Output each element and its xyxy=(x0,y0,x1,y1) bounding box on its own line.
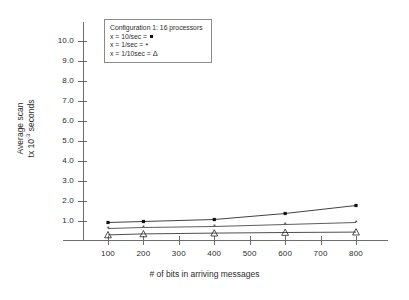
series-line-3 xyxy=(108,232,356,235)
y-tick-label-text: 7.0 xyxy=(40,97,74,105)
marker-asterisk: * xyxy=(142,224,145,231)
x-tick-600 xyxy=(285,236,286,245)
y-tick-7.0 xyxy=(78,101,87,102)
legend-row-series3: x = 1/10sec = Δ xyxy=(110,50,206,59)
y-axis-title-line1: Average scan xyxy=(15,103,25,155)
marker-square xyxy=(142,220,145,223)
y-axis-line xyxy=(83,22,84,241)
y-axis-title-line2: tx 10-3 seconds xyxy=(25,54,36,204)
y-axis-title-line2-prefix: tx 10 xyxy=(25,139,35,157)
marker-triangle xyxy=(282,229,289,235)
legend-label-series3: x = 1/10sec = xyxy=(110,50,153,57)
x-tick-label-500: 500 xyxy=(230,249,270,259)
x-tick-label-text: 700 xyxy=(301,249,341,259)
x-tick-label-400: 400 xyxy=(194,249,234,259)
x-tick-500 xyxy=(250,236,251,245)
y-tick-label-text: 8.0 xyxy=(40,77,74,85)
x-tick-100 xyxy=(108,236,109,245)
x-tick-300 xyxy=(179,236,180,245)
x-tick-label-text: 600 xyxy=(265,249,305,259)
x-tick-label-text: 400 xyxy=(194,249,234,259)
y-axis-title-line2-suffix: seconds xyxy=(25,100,35,134)
y-tick-label-7.0: 7.0 xyxy=(40,97,74,105)
x-tick-800 xyxy=(356,236,357,245)
marker-square xyxy=(354,204,357,207)
x-tick-label-600: 600 xyxy=(265,249,305,259)
y-tick-label-1.0: 1.0 xyxy=(40,217,74,225)
marker-triangle xyxy=(353,229,360,235)
y-tick-label-5.0: 5.0 xyxy=(40,137,74,145)
y-tick-1.0 xyxy=(78,221,87,222)
x-axis-line xyxy=(63,240,388,241)
legend-title: Configuration 1: 16 processors xyxy=(110,24,206,33)
y-tick-9.0 xyxy=(78,61,87,62)
legend-row-series1: x = 10/sec = xyxy=(110,33,206,42)
y-tick-label-text: 5.0 xyxy=(40,137,74,145)
x-tick-label-100: 100 xyxy=(88,249,128,259)
y-tick-label-10.0: 10.0 xyxy=(40,37,74,45)
marker-square xyxy=(213,218,216,221)
marker-square xyxy=(284,212,287,215)
x-tick-label-text: 100 xyxy=(88,249,128,259)
y-tick-label-text: 10.0 xyxy=(40,37,74,45)
x-tick-label-text: 300 xyxy=(159,249,199,259)
y-axis-title: Average scan tx 10-3 seconds xyxy=(15,54,36,204)
marker-asterisk: * xyxy=(213,223,216,230)
y-tick-10.0 xyxy=(78,41,87,42)
x-axis-title: # of bits in arriving messages xyxy=(0,269,409,279)
y-axis-title-exponent: -3 xyxy=(24,134,30,139)
x-tick-200 xyxy=(143,236,144,245)
series-1 xyxy=(106,204,357,224)
y-tick-label-6.0: 6.0 xyxy=(40,117,74,125)
chart-screenshot: 1.02.03.04.05.06.07.08.09.010.0 10020030… xyxy=(0,0,409,300)
series-2: ***** xyxy=(107,219,358,232)
marker-asterisk: * xyxy=(107,225,110,232)
y-tick-label-4.0: 4.0 xyxy=(40,157,74,165)
legend-label-series1: x = 10/sec = xyxy=(110,33,149,40)
x-tick-700 xyxy=(321,236,322,245)
marker-square xyxy=(106,221,109,224)
chart-legend: Configuration 1: 16 processors x = 10/se… xyxy=(104,19,212,63)
y-tick-label-text: 6.0 xyxy=(40,117,74,125)
square-marker-icon xyxy=(150,35,153,38)
legend-label-series2: x = 1/sec = xyxy=(110,41,145,48)
series-line-2 xyxy=(108,223,356,229)
y-tick-label-text: 4.0 xyxy=(40,157,74,165)
x-tick-label-text: 200 xyxy=(123,249,163,259)
x-tick-label-text: 500 xyxy=(230,249,270,259)
y-tick-3.0 xyxy=(78,181,87,182)
y-tick-5.0 xyxy=(78,141,87,142)
y-tick-label-8.0: 8.0 xyxy=(40,77,74,85)
y-tick-label-text: 3.0 xyxy=(40,177,74,185)
y-tick-label-3.0: 3.0 xyxy=(40,177,74,185)
x-tick-label-800: 800 xyxy=(336,249,376,259)
y-tick-label-text: 9.0 xyxy=(40,57,74,65)
marker-asterisk: * xyxy=(355,219,358,226)
y-tick-label-2.0: 2.0 xyxy=(40,197,74,205)
y-tick-8.0 xyxy=(78,81,87,82)
y-tick-label-9.0: 9.0 xyxy=(40,57,74,65)
series-line-1 xyxy=(108,206,356,223)
y-tick-2.0 xyxy=(78,201,87,202)
legend-row-series2: x = 1/sec = * xyxy=(110,41,206,50)
y-tick-label-text: 2.0 xyxy=(40,197,74,205)
y-tick-label-text: 1.0 xyxy=(40,217,74,225)
x-tick-label-300: 300 xyxy=(159,249,199,259)
x-tick-400 xyxy=(214,236,215,245)
x-tick-label-200: 200 xyxy=(123,249,163,259)
y-tick-4.0 xyxy=(78,161,87,162)
x-tick-label-700: 700 xyxy=(301,249,341,259)
triangle-marker-icon: Δ xyxy=(153,50,158,57)
marker-asterisk: * xyxy=(284,221,287,228)
asterisk-marker-icon: * xyxy=(145,43,148,48)
y-tick-6.0 xyxy=(78,121,87,122)
x-tick-label-text: 800 xyxy=(336,249,376,259)
